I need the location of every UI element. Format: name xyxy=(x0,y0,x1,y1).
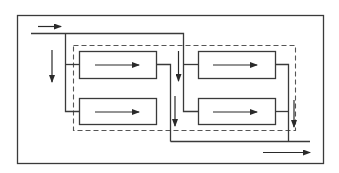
unit-1 xyxy=(80,52,157,79)
unit-4 xyxy=(199,99,276,125)
unit-2 xyxy=(80,99,157,125)
diagram-canvas xyxy=(0,0,339,173)
unit-3 xyxy=(199,52,276,79)
